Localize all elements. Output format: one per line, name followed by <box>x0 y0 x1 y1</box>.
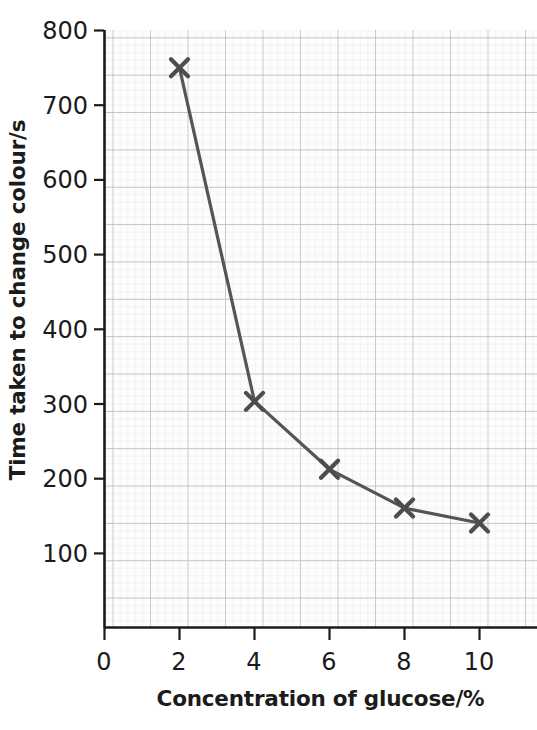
y-tick-label: 400 <box>42 316 88 344</box>
x-axis-tick-labels: 0 2 4 6 8 10 <box>96 648 494 676</box>
plot-area: 800 700 600 500 400 300 200 100 0 2 4 6 … <box>0 0 537 730</box>
y-tick-label: 300 <box>42 391 88 419</box>
y-axis-tick-labels: 800 700 600 500 400 300 200 100 <box>42 17 88 568</box>
y-tick-label: 200 <box>42 465 88 493</box>
y-axis-ticks <box>94 31 104 554</box>
y-tick-label: 500 <box>42 241 88 269</box>
x-tick-label: 4 <box>246 648 261 676</box>
x-tick-label: 10 <box>464 648 495 676</box>
grid-background <box>104 30 537 628</box>
y-tick-label: 800 <box>42 17 88 45</box>
x-tick-label: 2 <box>171 648 186 676</box>
x-tick-label: 8 <box>396 648 411 676</box>
y-tick-label: 700 <box>42 92 88 120</box>
glucose-concentration-line-chart: Time taken to change colour/s Concentrat… <box>0 0 537 730</box>
y-tick-label: 100 <box>42 540 88 568</box>
x-axis-ticks <box>105 628 480 640</box>
x-tick-label: 6 <box>321 648 336 676</box>
x-tick-label: 0 <box>96 648 111 676</box>
y-tick-label: 600 <box>42 166 88 194</box>
